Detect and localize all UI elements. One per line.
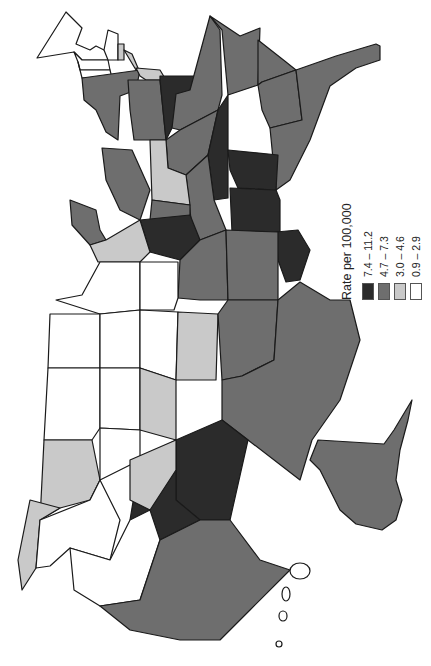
state-hawaii-oahu[interactable] (279, 611, 287, 621)
state-north-dakota[interactable] (48, 314, 100, 368)
legend-item-high: 7.4 – 11.2 (362, 231, 374, 300)
state-south-dakota[interactable] (100, 310, 140, 368)
state-hawaii-kauai[interactable] (276, 641, 282, 647)
legend-swatch (394, 283, 406, 300)
legend-swatch (362, 283, 374, 300)
state-hawaii-maui[interactable] (282, 587, 290, 601)
legend-label: 4.7 – 7.3 (378, 236, 390, 277)
state-massachusetts[interactable] (104, 30, 118, 60)
state-alabama[interactable] (228, 150, 278, 190)
state-michigan[interactable] (102, 148, 150, 220)
state-colorado[interactable] (140, 368, 176, 440)
legend-label: 3.0 – 4.6 (394, 236, 406, 277)
legend-item-low: 0.9 – 2.9 (410, 236, 422, 300)
state-new-mexico[interactable] (176, 420, 248, 520)
state-maine[interactable] (37, 12, 110, 60)
state-michigan-up[interactable] (70, 200, 106, 245)
state-rhode-island[interactable] (118, 44, 124, 60)
state-kansas[interactable] (176, 312, 218, 380)
legend-title: Rate per 100,000 (340, 203, 354, 300)
state-mississippi[interactable] (230, 188, 280, 232)
state-hawaii-big[interactable] (290, 563, 310, 579)
legend-item-med-low: 3.0 – 4.6 (394, 236, 406, 300)
legend-label: 7.4 – 11.2 (362, 231, 374, 277)
state-minnesota[interactable] (56, 262, 140, 314)
legend-label: 0.9 – 2.9 (410, 236, 422, 277)
legend-swatch (410, 283, 422, 300)
state-connecticut[interactable] (124, 50, 138, 70)
choropleth-map (0, 0, 431, 666)
legend-swatch (378, 283, 390, 300)
state-montana[interactable] (44, 368, 100, 440)
state-arkansas[interactable] (226, 230, 278, 300)
map-legend: Rate per 100,000 7.4 – 11.2 4.7 – 7.3 3.… (340, 140, 420, 300)
legend-item-med-high: 4.7 – 7.3 (378, 236, 390, 300)
state-iowa[interactable] (140, 262, 178, 310)
state-louisiana[interactable] (276, 230, 310, 282)
state-wyoming[interactable] (100, 368, 140, 430)
